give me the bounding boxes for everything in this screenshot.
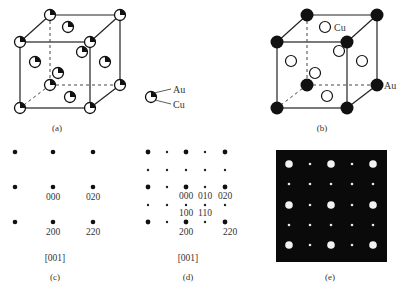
- caption-e: (e): [325, 272, 335, 282]
- caption-d: (d): [183, 272, 194, 282]
- spot-label: 020: [218, 191, 233, 201]
- panel-a-legend: Au Cu: [146, 84, 186, 110]
- zone-axis-d: [001]: [178, 253, 199, 263]
- figure-canvas: Au Cu (a): [0, 0, 401, 290]
- spot-label: 000: [46, 192, 61, 202]
- panel-d-labels: 000 010 020 100 110 200 220: [179, 191, 238, 237]
- spot-label: 010: [198, 191, 213, 201]
- caption-a: (a): [52, 123, 62, 133]
- cu-atoms: [286, 22, 368, 102]
- caption-c: (c): [50, 272, 60, 282]
- spot-label: 000: [179, 191, 194, 201]
- spot-label: 220: [223, 227, 238, 237]
- caption-b: (b): [317, 123, 328, 133]
- spot-label: 200: [46, 227, 61, 237]
- panel-e-pattern: [276, 150, 387, 262]
- spot-label: 220: [86, 227, 101, 237]
- panel-c-spots: [13, 150, 96, 225]
- spot-label: 020: [86, 192, 101, 202]
- spot-label: 110: [198, 208, 212, 218]
- au-label: Au: [384, 80, 396, 91]
- spot-label: 200: [179, 227, 194, 237]
- legend-au-label: Au: [173, 84, 185, 95]
- panel-b-cube: Cu Au: [271, 9, 397, 115]
- cu-label: Cu: [334, 22, 346, 33]
- zone-axis-c: [001]: [45, 253, 66, 263]
- panel-a-cube: [15, 10, 126, 114]
- spot-label: 100: [179, 208, 194, 218]
- panel-c-labels: 000 020 200 220: [46, 192, 101, 237]
- legend-cu-label: Cu: [173, 99, 185, 110]
